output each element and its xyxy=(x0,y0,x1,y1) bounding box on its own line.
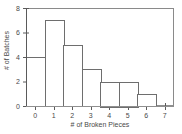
x-axis-tick-label: 4 xyxy=(102,112,116,119)
y-axis-tick-label: 8 xyxy=(8,5,20,12)
y-axis-tick-label: 2 xyxy=(8,78,20,85)
x-axis-tick-label: 3 xyxy=(84,112,98,119)
histogram-bar xyxy=(83,70,102,107)
x-axis-tick-label: 7 xyxy=(158,112,172,119)
histogram-bar xyxy=(64,46,83,107)
y-axis-tick-label: 4 xyxy=(8,54,20,61)
x-axis-tick-label: 6 xyxy=(139,112,153,119)
y-axis-title: # of Batches xyxy=(3,21,10,81)
x-axis-tick-label: 0 xyxy=(28,112,42,119)
histogram-bar xyxy=(46,21,65,107)
histogram-bar xyxy=(120,83,139,108)
histogram-bar xyxy=(101,83,120,108)
histogram-bar xyxy=(138,95,157,107)
histogram-bar xyxy=(27,58,46,107)
y-axis-tick-label: 0 xyxy=(8,103,20,110)
y-axis-tick-label: 6 xyxy=(8,29,20,36)
x-axis-tick-label: 5 xyxy=(121,112,135,119)
x-axis-title: # of Broken Pieces xyxy=(26,121,174,128)
histogram-chart: 02468 01234567 # of Broken Pieces # of B… xyxy=(0,0,182,134)
x-axis-tick-label: 1 xyxy=(47,112,61,119)
x-axis-tick-label: 2 xyxy=(65,112,79,119)
